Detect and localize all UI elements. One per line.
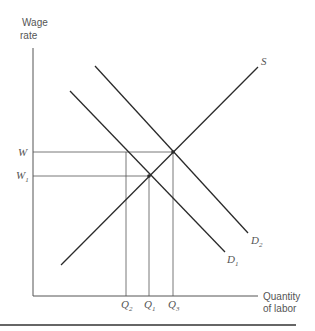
labor-market-diagram: Wage rate Quantity of labor S D1 D2 W W1… [0, 0, 315, 331]
d2-label: D2 [250, 234, 263, 249]
supply-label: S [261, 55, 267, 67]
supply-curve [61, 67, 258, 265]
d1-label: D1 [226, 253, 238, 268]
w1-label: W1 [16, 169, 29, 184]
q1-label: Q1 [144, 298, 155, 313]
equilibrium-point-1 [147, 174, 151, 178]
q3-label: Q3 [168, 298, 180, 313]
y-axis-label: Wage [22, 17, 48, 28]
x-axis-label-line2: of labor [263, 303, 297, 314]
w-label: W [18, 146, 28, 158]
q2-label: Q2 [121, 298, 133, 313]
demand-curve-d1 [70, 91, 225, 252]
equilibrium-point-2 [171, 150, 175, 154]
y-axis-label-line2: rate [20, 30, 38, 41]
x-axis-label: Quantity [263, 291, 300, 302]
